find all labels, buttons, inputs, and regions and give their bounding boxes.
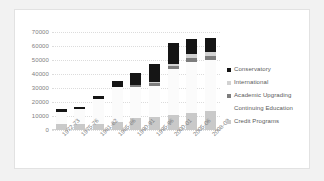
bar-segment: [186, 62, 197, 112]
bar-segment: [205, 38, 216, 53]
bar-segment: [149, 64, 160, 82]
legend-item[interactable]: Academic Upgrading: [227, 92, 324, 105]
plot-area: 700006000050000400003000020000100000: [52, 32, 220, 130]
bar-series-group: [52, 32, 220, 130]
y-axis-tick-label: 10000: [32, 113, 49, 119]
bar-column[interactable]: [112, 32, 123, 130]
legend-item[interactable]: Conservatory: [227, 66, 324, 79]
legend-item[interactable]: Credit Programs: [227, 118, 324, 131]
y-axis-tick-label: 60000: [32, 43, 49, 49]
bar-column[interactable]: [130, 32, 141, 130]
bar-segment: [130, 73, 141, 85]
legend-item-label: Conservatory: [234, 66, 271, 72]
bar-segment: [168, 69, 179, 115]
bar-segment: [56, 112, 67, 125]
bar-column[interactable]: [74, 32, 85, 130]
chart-legend: ConservatoryInternationalAcademic Upgrad…: [227, 66, 324, 131]
bar-segment: [205, 60, 216, 111]
bar-column[interactable]: [56, 32, 67, 130]
legend-item-label: Continuing Education: [234, 105, 293, 111]
y-axis-tick-label: 70000: [32, 29, 49, 35]
bar-segment: [149, 86, 160, 118]
legend-swatch-icon: [227, 81, 231, 85]
legend-swatch-icon: [227, 107, 231, 111]
y-axis-tick-label: 20000: [32, 99, 49, 105]
bar-stack: [205, 38, 216, 130]
bar-column[interactable]: [168, 32, 179, 130]
legend-swatch-icon: [227, 68, 231, 72]
legend-item[interactable]: Continuing Education: [227, 105, 324, 118]
bar-segment: [168, 43, 179, 64]
legend-swatch-icon: [227, 94, 231, 98]
y-axis-tick-label: 0: [46, 127, 49, 133]
legend-item-label: International: [234, 79, 268, 85]
x-axis-tick-labels: 1972-731975-761981-821985-861990-911995-…: [52, 131, 220, 171]
bar-segment: [186, 39, 197, 54]
legend-item[interactable]: International: [227, 79, 324, 92]
bar-segment: [112, 87, 123, 122]
bar-column[interactable]: [205, 32, 216, 130]
legend-item-label: Academic Upgrading: [234, 92, 292, 98]
legend-item-label: Credit Programs: [234, 118, 279, 124]
bar-column[interactable]: [186, 32, 197, 130]
legend-swatch-icon: [227, 120, 231, 124]
y-axis-tick-label: 50000: [32, 57, 49, 63]
bar-column[interactable]: [93, 32, 104, 130]
bar-column[interactable]: [149, 32, 160, 130]
bar-segment: [130, 87, 141, 118]
y-axis-tick-label: 30000: [32, 85, 49, 91]
chart-container: 700006000050000400003000020000100000 197…: [14, 9, 310, 169]
y-axis-tick-label: 40000: [32, 71, 49, 77]
